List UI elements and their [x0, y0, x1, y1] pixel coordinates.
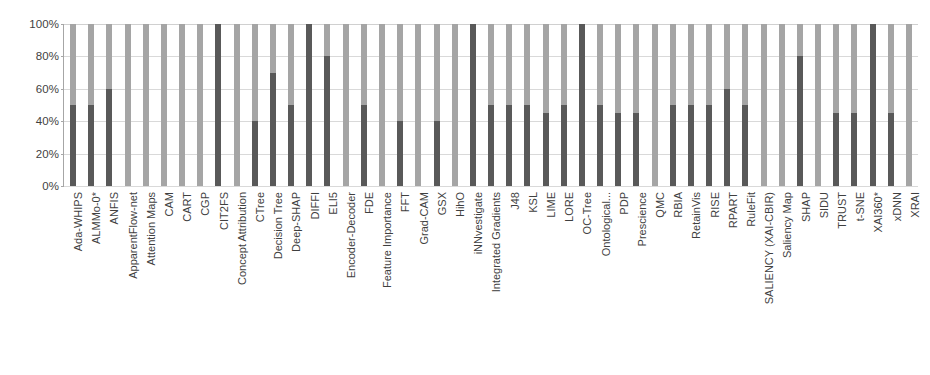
- bar-segment-upper: [161, 24, 167, 186]
- x-label-slot: Encoder-Decoder: [336, 188, 354, 368]
- stacked-bar: [506, 24, 512, 186]
- bar-slot: [773, 24, 791, 186]
- bar-segment-lower: [397, 121, 403, 186]
- bar-segment-upper: [125, 24, 131, 186]
- x-label-slot: DIFFI: [299, 188, 317, 368]
- bar-segment-lower: [361, 105, 367, 186]
- y-tick-mark: [61, 186, 64, 187]
- bar-slot: [718, 24, 736, 186]
- bar-segment-lower: [561, 105, 567, 186]
- stacked-bar: [797, 24, 803, 186]
- stacked-bar: [379, 24, 385, 186]
- bar-segment-lower: [633, 113, 639, 186]
- bar-segment-upper: [633, 24, 639, 113]
- bar-segment-lower: [306, 24, 312, 186]
- bar-segment-upper: [670, 24, 676, 105]
- bar-segment-upper: [434, 24, 440, 121]
- x-label-slot: Concept Attribution: [227, 188, 245, 368]
- stacked-bar: [197, 24, 203, 186]
- stacked-bar: [633, 24, 639, 186]
- y-tick-label: 40%: [36, 115, 59, 127]
- bar-segment-upper: [742, 24, 748, 105]
- bar-segment-upper: [906, 24, 912, 186]
- bar-slot: [864, 24, 882, 186]
- bar-slot: [591, 24, 609, 186]
- x-label-slot: Integrated Gradients: [481, 188, 499, 368]
- stacked-bar: [106, 24, 112, 186]
- x-label-slot: CART: [172, 188, 190, 368]
- bar-slot: [246, 24, 264, 186]
- bar-slot: [627, 24, 645, 186]
- bar-segment-upper: [252, 24, 258, 121]
- stacked-bar: [288, 24, 294, 186]
- bar-segment-lower: [215, 24, 221, 186]
- bar-slot: [173, 24, 191, 186]
- stacked-bar: [724, 24, 730, 186]
- x-label-slot: Decision Tree: [263, 188, 281, 368]
- stacked-bar: [470, 24, 476, 186]
- bar-slot: [882, 24, 900, 186]
- stacked-bar: [906, 24, 912, 186]
- x-label-slot: PDP: [609, 188, 627, 368]
- x-label-slot: RISE: [700, 188, 718, 368]
- bar-segment-upper: [797, 24, 803, 56]
- stacked-bar: [870, 24, 876, 186]
- x-label-slot: ApparentFlow-net: [118, 188, 136, 368]
- stacked-bar: [361, 24, 367, 186]
- x-label-slot: FFT: [390, 188, 408, 368]
- bar-segment-lower: [724, 89, 730, 186]
- stacked-bar: [815, 24, 821, 186]
- stacked-bar: [324, 24, 330, 186]
- x-label-slot: Grad-CAM: [409, 188, 427, 368]
- x-label-slot: QMC: [645, 188, 663, 368]
- bar-segment-lower: [506, 105, 512, 186]
- bar-segment-upper: [851, 24, 857, 113]
- x-label-slot: RBIA: [663, 188, 681, 368]
- y-tick-label: 100%: [29, 18, 59, 30]
- x-label-slot: CGP: [190, 188, 208, 368]
- stacked-bar: [833, 24, 839, 186]
- bar-slot: [300, 24, 318, 186]
- stacked-bar: [270, 24, 276, 186]
- stacked-bar: [597, 24, 603, 186]
- stacked-bar: [343, 24, 349, 186]
- bar-slot: [337, 24, 355, 186]
- stacked-bar-chart: 0%20%40%60%80%100% Ada-WHIPSALMMo-0*ANFI…: [0, 0, 930, 375]
- bar-segment-lower: [252, 121, 258, 186]
- bar-segment-lower: [543, 113, 549, 186]
- bar-segment-lower: [88, 105, 94, 186]
- bar-slot: [845, 24, 863, 186]
- bar-segment-upper: [106, 24, 112, 89]
- bar-slot: [82, 24, 100, 186]
- x-label-slot: CAM: [154, 188, 172, 368]
- bar-slot: [809, 24, 827, 186]
- x-label-slot: KSL: [518, 188, 536, 368]
- y-tick-label: 80%: [36, 50, 59, 62]
- bar-segment-lower: [706, 105, 712, 186]
- bar-segment-lower: [488, 105, 494, 186]
- x-label-slot: Ontological...: [590, 188, 608, 368]
- x-label-slot: t-SNE: [845, 188, 863, 368]
- bar-segment-upper: [452, 24, 458, 186]
- x-label-slot: FDE: [354, 188, 372, 368]
- bar-segment-upper: [724, 24, 730, 89]
- stacked-bar: [143, 24, 149, 186]
- gridline: [64, 186, 918, 187]
- bar-segment-upper: [270, 24, 276, 73]
- bar-slot: [119, 24, 137, 186]
- bar-segment-lower: [797, 56, 803, 186]
- x-label-slot: XAI360*: [863, 188, 881, 368]
- x-label-slot: Ada-WHIPS: [63, 188, 81, 368]
- stacked-bar: [851, 24, 857, 186]
- x-label-slot: RuleFit: [736, 188, 754, 368]
- bar-segment-lower: [288, 105, 294, 186]
- bar-slot: [555, 24, 573, 186]
- x-label-slot: Deep-SHAP: [281, 188, 299, 368]
- stacked-bar: [215, 24, 221, 186]
- bar-slot: [464, 24, 482, 186]
- bar-slot: [700, 24, 718, 186]
- x-label-slot: ELI5: [318, 188, 336, 368]
- bar-segment-upper: [197, 24, 203, 186]
- bar-segment-upper: [379, 24, 385, 186]
- bar-slot: [791, 24, 809, 186]
